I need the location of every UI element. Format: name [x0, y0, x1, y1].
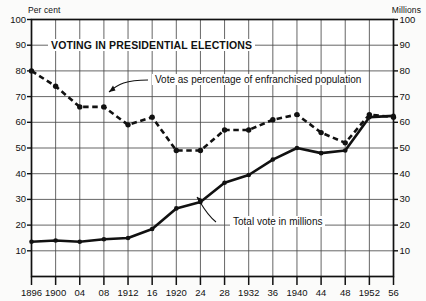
right-axis-tick-label: 70: [400, 92, 426, 102]
x-axis-tick-label: 08: [99, 288, 110, 298]
x-axis-tick-label: 36: [268, 288, 279, 298]
x-axis-tick-label: 48: [340, 288, 351, 298]
chart-title: VOTING IN PRESIDENTIAL ELECTIONS: [48, 39, 255, 51]
right-axis-tick-label: 40: [400, 169, 426, 179]
left-axis-tick-label: 10: [2, 246, 26, 256]
x-axis-tick-label: 04: [74, 288, 85, 298]
left-axis-tick-label: 90: [2, 40, 26, 50]
x-axis-tick-label: 1932: [238, 288, 259, 298]
left-axis-tick-label: 50: [2, 143, 26, 153]
right-axis-tick-label: 100: [400, 15, 426, 25]
left-axis-tick-label: 20: [2, 220, 26, 230]
right-axis-tick-label: 90: [400, 40, 426, 50]
x-axis-tick-label: 16: [147, 288, 158, 298]
x-axis-tick-label: 44: [316, 288, 327, 298]
left-axis-tick-label: 60: [2, 117, 26, 127]
left-axis-tick-label: 80: [2, 66, 26, 76]
x-axis-tick-label: 28: [219, 288, 230, 298]
x-axis-tick-label: 56: [388, 288, 399, 298]
total-series-label: Total vote in millions: [230, 216, 325, 227]
right-axis-tick-label: 80: [400, 66, 426, 76]
left-axis-tick-label: 40: [2, 169, 26, 179]
left-axis-tick-label: 70: [2, 92, 26, 102]
x-axis-tick-label: 1940: [286, 288, 307, 298]
x-axis-tick-label: 1920: [166, 288, 187, 298]
right-axis-tick-label: 30: [400, 194, 426, 204]
percentage-series-label: Vote as percentage of enfranchised popul…: [152, 74, 364, 85]
x-axis-tick-label: 1900: [45, 288, 66, 298]
right-axis-tick-label: 60: [400, 117, 426, 127]
left-axis-tick-label: 100: [2, 15, 26, 25]
right-axis-tick-label: 50: [400, 143, 426, 153]
left-axis-tick-label: 30: [2, 194, 26, 204]
right-axis-tick-label: 10: [400, 246, 426, 256]
right-axis-tick-label: 20: [400, 220, 426, 230]
x-axis-tick-label: 1952: [359, 288, 380, 298]
x-axis-tick-label: 1896: [21, 288, 42, 298]
x-axis-tick-label: 24: [195, 288, 206, 298]
chart-figure: Per cent Millions VOTING IN PRESIDENTIAL…: [0, 0, 426, 301]
x-axis-tick-label: 1912: [117, 288, 138, 298]
